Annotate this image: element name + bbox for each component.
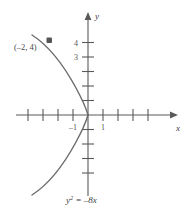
x-axis-arrow-icon bbox=[170, 112, 178, 119]
equation-label: y2 = –8x bbox=[65, 194, 97, 206]
y-tick-label-3: 3 bbox=[74, 53, 78, 62]
x-axis-label: x bbox=[175, 123, 180, 133]
point-label: (–2, 4) bbox=[14, 42, 37, 52]
equation-rest: = –8x bbox=[73, 195, 97, 205]
parabola-figure: 4 3 –1 1 y x (–2, 4) y2 = –8x bbox=[0, 0, 195, 215]
x-tick-label-1: 1 bbox=[101, 123, 105, 132]
x-tick-label-neg1: –1 bbox=[68, 123, 77, 132]
y-axis-label: y bbox=[94, 11, 99, 21]
y-tick-label-4: 4 bbox=[74, 39, 78, 48]
chart-canvas: 4 3 –1 1 y x (–2, 4) y2 = –8x bbox=[0, 0, 195, 215]
y-axis-arrow-icon bbox=[85, 12, 92, 20]
point-marker bbox=[47, 38, 53, 44]
